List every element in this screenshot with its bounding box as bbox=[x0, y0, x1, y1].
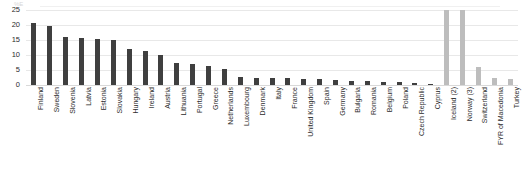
bar-slot bbox=[328, 10, 344, 85]
x-label-slot: Slovenia bbox=[58, 87, 74, 179]
x-axis: FinlandSwedenSloveniaLatviaEstoniaSlovak… bbox=[26, 87, 518, 179]
x-label-slot: Bulgaria bbox=[344, 87, 360, 179]
bar bbox=[158, 55, 163, 85]
bar bbox=[143, 51, 148, 85]
y-axis-tick-label: 5 bbox=[16, 66, 20, 74]
bar-slot bbox=[439, 10, 455, 85]
y-axis: 0510152025 bbox=[0, 10, 24, 85]
bar bbox=[428, 84, 433, 85]
bar-slot bbox=[264, 10, 280, 85]
bar-slot bbox=[217, 10, 233, 85]
clipped-header-artifact: %E bbox=[0, 0, 524, 8]
bar bbox=[412, 83, 417, 85]
bar-slot bbox=[280, 10, 296, 85]
bar bbox=[254, 78, 259, 86]
bar-slot bbox=[74, 10, 90, 85]
x-label-slot: Czech Republic bbox=[407, 87, 423, 179]
bar bbox=[460, 10, 465, 85]
y-axis-tick-label: 10 bbox=[12, 51, 20, 59]
x-label-slot: Sweden bbox=[42, 87, 58, 179]
bar-slot bbox=[375, 10, 391, 85]
x-label-slot: Romania bbox=[359, 87, 375, 179]
axis-baseline bbox=[26, 85, 518, 86]
bar bbox=[111, 40, 116, 85]
bar bbox=[444, 10, 449, 85]
bar-slot bbox=[296, 10, 312, 85]
bar-slot bbox=[407, 10, 423, 85]
x-label-slot: United Kingdom bbox=[296, 87, 312, 179]
bar bbox=[349, 81, 354, 86]
y-axis-tick-label: 0 bbox=[16, 81, 20, 89]
x-label-slot: Austria bbox=[153, 87, 169, 179]
bar bbox=[397, 82, 402, 85]
x-label-slot: France bbox=[280, 87, 296, 179]
bar-slot bbox=[153, 10, 169, 85]
bar bbox=[508, 79, 513, 85]
bar bbox=[190, 64, 195, 85]
bar bbox=[63, 37, 68, 85]
bar-slot bbox=[455, 10, 471, 85]
bar bbox=[333, 80, 338, 85]
bar-slot bbox=[121, 10, 137, 85]
clipped-rule bbox=[40, 6, 500, 7]
x-label-slot: Hungary bbox=[121, 87, 137, 179]
bar bbox=[381, 82, 386, 85]
x-label-slot: Luxembourg bbox=[232, 87, 248, 179]
x-label-slot: Italy bbox=[264, 87, 280, 179]
x-label-slot: Denmark bbox=[248, 87, 264, 179]
bar-chart: %E 0510152025 FinlandSwedenSloveniaLatvi… bbox=[0, 0, 524, 179]
bar-slot bbox=[471, 10, 487, 85]
bar bbox=[174, 63, 179, 85]
bar bbox=[127, 49, 132, 85]
bar-slot bbox=[502, 10, 518, 85]
bar bbox=[222, 69, 227, 85]
x-label-slot: Germany bbox=[328, 87, 344, 179]
x-label-slot: Iceland (2) bbox=[439, 87, 455, 179]
bar-slot bbox=[423, 10, 439, 85]
bar-slot bbox=[248, 10, 264, 85]
x-label-slot: Latvia bbox=[74, 87, 90, 179]
x-label-slot: Turkey bbox=[502, 87, 518, 179]
bar bbox=[285, 78, 290, 85]
bar-slot bbox=[26, 10, 42, 85]
bar-slot bbox=[344, 10, 360, 85]
x-label-slot: Spain bbox=[312, 87, 328, 179]
bar-series bbox=[26, 10, 518, 85]
x-label-slot: Finland bbox=[26, 87, 42, 179]
plot-area bbox=[26, 10, 518, 85]
y-axis-tick-label: 20 bbox=[12, 21, 20, 29]
x-label-slot: Estonia bbox=[90, 87, 106, 179]
x-label-slot: Greece bbox=[201, 87, 217, 179]
bar-slot bbox=[201, 10, 217, 85]
x-label-slot: Switzerland bbox=[471, 87, 487, 179]
bar-slot bbox=[312, 10, 328, 85]
x-axis-tick-label: Turkey bbox=[513, 87, 520, 108]
bar bbox=[317, 79, 322, 85]
bar bbox=[238, 77, 243, 85]
bar-slot bbox=[137, 10, 153, 85]
bar-slot bbox=[486, 10, 502, 85]
bar-slot bbox=[391, 10, 407, 85]
x-label-slot: Norway (3) bbox=[455, 87, 471, 179]
x-label-slot: Portugal bbox=[185, 87, 201, 179]
bar bbox=[492, 78, 497, 86]
bar bbox=[95, 39, 100, 86]
y-axis-tick-label: 15 bbox=[12, 36, 20, 44]
x-label-slot: Belgium bbox=[375, 87, 391, 179]
bar-slot bbox=[169, 10, 185, 85]
bar bbox=[79, 38, 84, 85]
x-label-slot: Cyprus bbox=[423, 87, 439, 179]
x-label-slot: Lithuania bbox=[169, 87, 185, 179]
bar-slot bbox=[359, 10, 375, 85]
x-label-slot: Poland bbox=[391, 87, 407, 179]
bar bbox=[476, 67, 481, 85]
bar-slot bbox=[232, 10, 248, 85]
bar-slot bbox=[105, 10, 121, 85]
x-label-slot: FYR of Macedonia bbox=[486, 87, 502, 179]
bar-slot bbox=[90, 10, 106, 85]
y-axis-tick-label: 25 bbox=[12, 6, 20, 14]
bar bbox=[47, 26, 52, 85]
x-label-slot: Slovakia bbox=[105, 87, 121, 179]
bar-slot bbox=[185, 10, 201, 85]
bar bbox=[31, 23, 36, 85]
